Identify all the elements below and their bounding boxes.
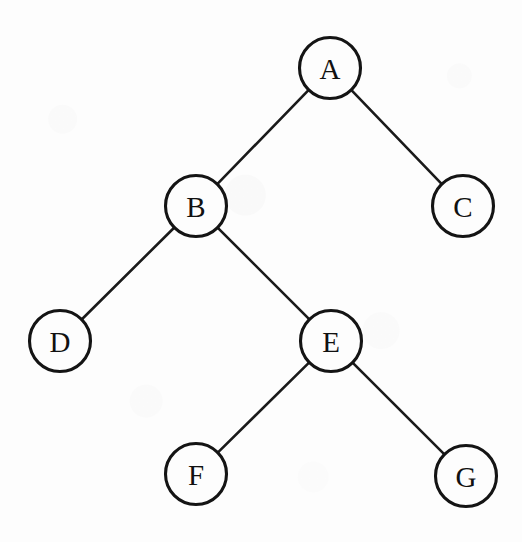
node-label-b: B [186, 191, 205, 223]
tree-edge-a-b [217, 90, 309, 184]
node-label-a: A [320, 53, 341, 85]
tree-node-e[interactable]: E [301, 311, 362, 372]
tree-node-g[interactable]: G [436, 446, 497, 507]
node-label-e: E [322, 326, 340, 358]
node-label-g: G [456, 461, 477, 493]
tree-node-f[interactable]: F [166, 444, 227, 505]
diagram-canvas: ABCDEFG [0, 0, 522, 542]
tree-edge-b-d [82, 227, 175, 319]
node-label-d: D [50, 326, 71, 358]
edges-layer [82, 90, 445, 455]
tree-node-a[interactable]: A [300, 38, 361, 99]
tree-edge-e-g [353, 363, 445, 455]
tree-diagram: ABCDEFG [0, 0, 522, 542]
tree-edge-b-e [218, 228, 310, 320]
tree-node-b[interactable]: B [166, 176, 227, 237]
node-label-c: C [453, 191, 472, 223]
tree-edge-a-c [351, 90, 442, 184]
tree-node-c[interactable]: C [433, 176, 494, 237]
tree-node-d[interactable]: D [30, 311, 91, 372]
node-label-f: F [188, 459, 204, 491]
tree-edge-e-f [218, 362, 310, 452]
